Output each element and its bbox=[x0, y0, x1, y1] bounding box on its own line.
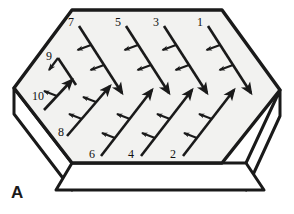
label-7: 7 bbox=[68, 15, 74, 29]
label-4: 4 bbox=[128, 147, 134, 161]
label-6: 6 bbox=[89, 147, 95, 161]
label-9: 9 bbox=[46, 49, 52, 63]
panel-label-a: A bbox=[11, 183, 23, 202]
figure-canvas: 1 2 3 4 5 6 7 8 9 10 A bbox=[0, 0, 294, 214]
label-3: 3 bbox=[153, 15, 159, 29]
slab-front-wall bbox=[56, 163, 264, 190]
label-1: 1 bbox=[197, 15, 203, 29]
hexagon-top-face bbox=[14, 10, 280, 163]
label-5: 5 bbox=[115, 15, 121, 29]
label-8: 8 bbox=[58, 125, 64, 139]
hexagonal-slab-diagram: 1 2 3 4 5 6 7 8 9 10 A bbox=[0, 0, 294, 214]
label-2: 2 bbox=[170, 147, 176, 161]
label-10: 10 bbox=[32, 89, 44, 103]
